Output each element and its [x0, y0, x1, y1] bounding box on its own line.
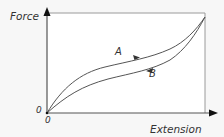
curve-b [47, 17, 205, 113]
curve-a [47, 17, 205, 113]
origin-point [46, 112, 49, 115]
curve-b-label: B [149, 69, 156, 79]
x-axis-arrow-icon [209, 110, 218, 117]
y-axis-label: Force [10, 11, 39, 22]
x-axis-label: Extension [150, 124, 202, 135]
curve-a-label: A [115, 47, 122, 57]
origin-label-x: 0 [45, 116, 51, 125]
y-axis-arrow-icon [44, 7, 51, 16]
origin-label-y: 0 [36, 106, 42, 115]
